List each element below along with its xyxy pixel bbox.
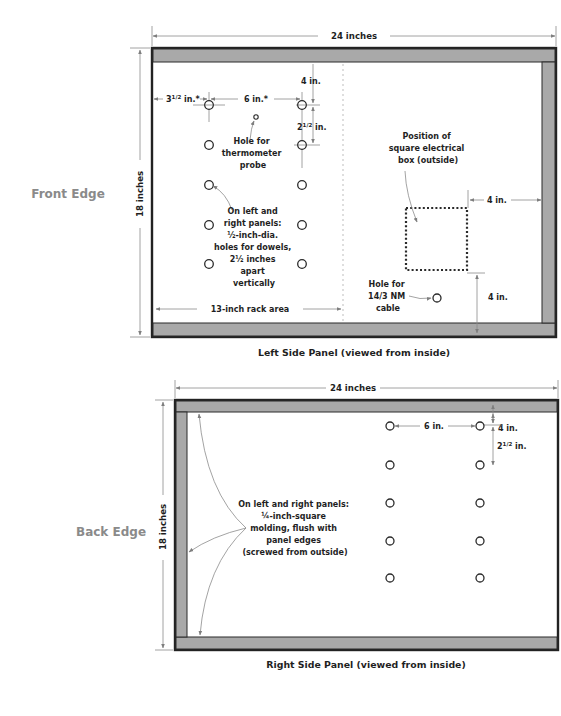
- right-top-molding: [176, 401, 557, 412]
- dowel-hole: [476, 422, 484, 430]
- dowel-hole: [476, 499, 484, 507]
- dim-3-5-label: 31/2 in.*: [166, 94, 201, 104]
- left-width-dimension: 24 inches: [152, 26, 556, 46]
- left-height-label: 18 inches: [135, 171, 145, 217]
- dowel-hole: [205, 221, 214, 230]
- right-panel-board: [175, 400, 558, 650]
- left-right-molding: [542, 62, 555, 323]
- dowel-hole: [386, 537, 394, 545]
- right-panel-caption: Right Side Panel (viewed from inside): [266, 659, 466, 670]
- dowel-hole: [476, 537, 484, 545]
- box-bottom-dim-label: 4 in.: [488, 293, 508, 302]
- left-side-panel: 24 inches 18 inches 31/2 in.* 6 in.* 4 i…: [31, 26, 556, 358]
- dowel-hole: [386, 574, 394, 582]
- dowel-hole: [205, 181, 214, 190]
- cable-hole: [433, 294, 441, 302]
- right-dim-6-label: 6 in.: [424, 422, 444, 431]
- dowel-hole: [205, 260, 214, 269]
- molding-note: On left and right panels: ¼-inch-square …: [238, 500, 352, 557]
- dowel-hole: [298, 221, 307, 230]
- rack-area-label: 13-inch rack area: [211, 305, 289, 314]
- left-panel-caption: Left Side Panel (viewed from inside): [258, 347, 450, 358]
- left-width-label: 24 inches: [331, 31, 377, 41]
- dowel-hole: [298, 260, 307, 269]
- dowel-hole: [476, 461, 484, 469]
- right-width-label: 24 inches: [330, 383, 376, 393]
- dowel-hole: [386, 499, 394, 507]
- right-left-molding: [176, 412, 187, 637]
- front-edge-label: Front Edge: [31, 187, 105, 201]
- back-edge-label: Back Edge: [76, 525, 146, 539]
- right-dim-2-5-label: 21/2 in.: [497, 441, 527, 451]
- left-top-molding: [153, 49, 555, 62]
- panel-diagram: 24 inches 18 inches 31/2 in.* 6 in.* 4 i…: [0, 0, 561, 716]
- box-right-dim-label: 4 in.: [487, 196, 507, 205]
- dowel-hole: [386, 422, 394, 430]
- left-height-dimension: 18 inches: [130, 48, 150, 337]
- dowel-hole: [386, 461, 394, 469]
- left-bottom-molding: [153, 323, 555, 336]
- dowel-hole: [205, 141, 214, 150]
- right-bottom-molding: [176, 637, 557, 649]
- dowel-hole: [476, 574, 484, 582]
- dim-2-5-label: 21/2 in.: [297, 122, 327, 132]
- dim-6-label: 6 in.*: [244, 95, 269, 104]
- right-height-label: 18 inches: [158, 504, 168, 550]
- thermometer-hole: [254, 115, 258, 119]
- right-side-panel: 24 inches 18 inches On left and right pa…: [76, 380, 558, 670]
- right-height-dimension: 18 inches: [155, 400, 173, 650]
- dim-4-top-label: 4 in.: [301, 77, 321, 86]
- right-width-dimension: 24 inches: [175, 380, 558, 398]
- dowel-hole: [298, 181, 307, 190]
